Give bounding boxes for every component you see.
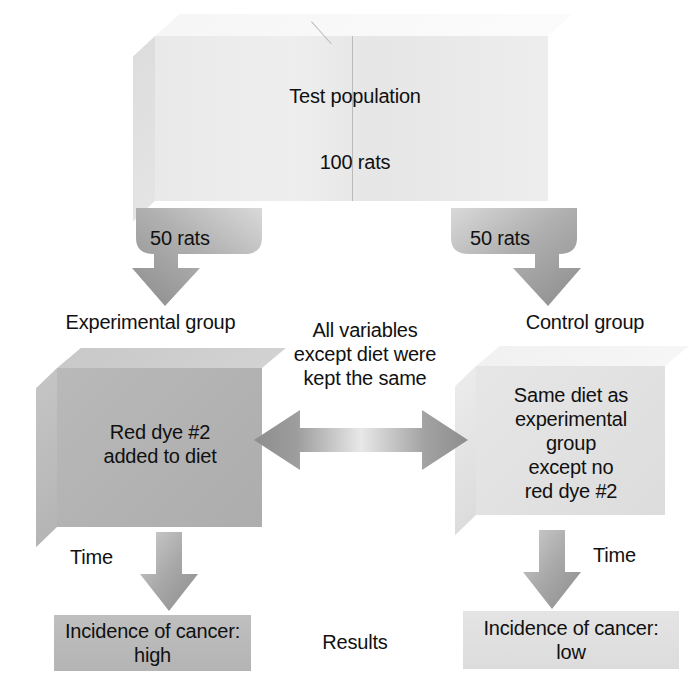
test-population-box-top-face	[155, 14, 572, 36]
result-text-control: Incidence of cancer: low	[484, 616, 659, 664]
result-box-control: Incidence of cancer: low	[463, 611, 679, 669]
time-arrow-right	[521, 530, 583, 610]
time-label-right: Time	[593, 543, 673, 567]
control-group-label: Control group	[495, 310, 675, 334]
results-label: Results	[300, 630, 410, 654]
variables-double-arrow	[252, 404, 470, 476]
control-box-top-face	[476, 346, 689, 366]
left-split-arrow-label: 50 rats	[150, 226, 260, 250]
test-population-box-left-face	[133, 36, 155, 222]
result-text-experimental: Incidence of cancer: high	[65, 619, 240, 667]
experimental-group-label: Experimental group	[28, 310, 273, 334]
right-split-arrow-label: 50 rats	[470, 226, 580, 250]
test-population-label: Test population	[215, 84, 495, 108]
time-arrow-left	[138, 532, 200, 612]
left-split-arrow	[130, 208, 270, 308]
center-note-label: All variables except diet were kept the …	[272, 318, 458, 390]
population-split-divider	[352, 36, 353, 201]
right-split-arrow	[443, 208, 583, 308]
test-population-box	[155, 36, 548, 201]
control-box-text: Same diet as experimental group except n…	[480, 383, 662, 503]
result-box-experimental: Incidence of cancer: high	[54, 615, 251, 671]
rat-count-label: 100 rats	[215, 150, 495, 174]
experimental-box-top-face	[57, 348, 286, 368]
experimental-box-text: Red dye #2 added to diet	[62, 420, 258, 468]
experimental-box-left-face	[36, 368, 57, 547]
